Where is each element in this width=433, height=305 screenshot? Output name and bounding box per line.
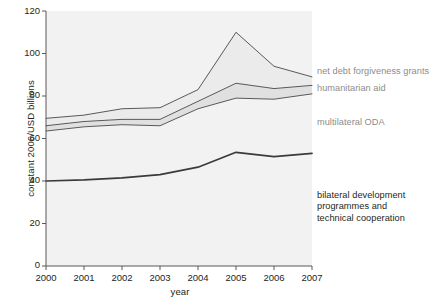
- xtick-2007: 2007: [292, 272, 332, 283]
- xtick-2000: 2000: [26, 272, 66, 283]
- ytick-120: 120: [14, 5, 40, 16]
- series-label-bilateral-development: bilateral development programmes and tec…: [317, 190, 405, 224]
- ytick-100: 100: [14, 47, 40, 58]
- xtick-2001: 2001: [64, 272, 104, 283]
- ytick-20: 20: [14, 217, 40, 228]
- series-label-net-debt-forgiveness-grants: net debt forgiveness grants: [317, 66, 429, 77]
- series-label-humanitarian-aid: humanitarian aid: [317, 83, 386, 94]
- xtick-2005: 2005: [216, 272, 256, 283]
- chart-figure: 120 100 80 60 40 20 0 2000 2001 2002 200…: [0, 0, 433, 305]
- series-label-multilateral-oda: multilateral ODA: [317, 117, 385, 128]
- xtick-2006: 2006: [254, 272, 294, 283]
- x-axis-title: year: [150, 286, 210, 297]
- chart-plot: [0, 0, 433, 305]
- xtick-2003: 2003: [140, 272, 180, 283]
- y-axis-title: constant 2006/USD billions: [25, 59, 36, 219]
- ytick-0: 0: [14, 259, 40, 270]
- xtick-2004: 2004: [178, 272, 218, 283]
- xtick-2002: 2002: [102, 272, 142, 283]
